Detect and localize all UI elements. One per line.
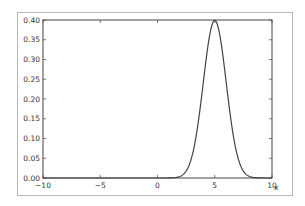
x-axis-label: x (274, 183, 279, 192)
x-tick-label: 5 (212, 181, 217, 190)
y-tick-label: 0.35 (23, 35, 40, 44)
y-tick-label: 0.05 (23, 154, 40, 163)
y-tick-label: 0.20 (23, 95, 40, 104)
x-tick-label: −10 (35, 181, 51, 190)
x-tick-label: −5 (95, 181, 106, 190)
y-tick-label: 0.30 (23, 55, 40, 64)
y-tick-label: 0.10 (23, 134, 40, 143)
x-tick-label: 0 (155, 181, 160, 190)
y-tick-label: 0.25 (23, 75, 40, 84)
y-tick-label: 0.40 (23, 16, 40, 25)
line-chart: 0.000.050.100.150.200.250.300.350.40 −10… (0, 0, 305, 206)
y-tick-label: 0.15 (23, 114, 40, 123)
